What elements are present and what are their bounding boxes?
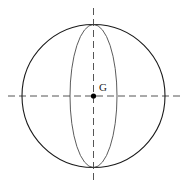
- center-point-dot: [91, 93, 96, 98]
- center-point-label: G: [99, 81, 107, 93]
- figure-svg: G: [0, 0, 190, 191]
- sphere-diagram: G: [0, 0, 190, 191]
